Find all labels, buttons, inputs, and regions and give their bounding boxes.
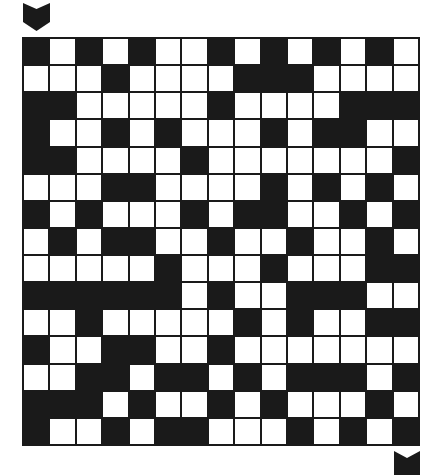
open-cell[interactable] [77,93,101,118]
open-cell[interactable] [130,365,154,390]
open-cell[interactable] [50,256,74,281]
open-cell[interactable] [235,93,259,118]
open-cell[interactable] [262,148,286,173]
open-cell[interactable] [235,229,259,254]
open-cell[interactable] [288,256,312,281]
open-cell[interactable] [103,39,127,64]
open-cell[interactable] [24,229,48,254]
open-cell[interactable] [341,392,365,417]
open-cell[interactable] [341,229,365,254]
open-cell[interactable] [314,256,338,281]
open-cell[interactable] [156,202,180,227]
open-cell[interactable] [235,148,259,173]
open-cell[interactable] [288,337,312,362]
open-cell[interactable] [103,93,127,118]
open-cell[interactable] [314,148,338,173]
open-cell[interactable] [103,310,127,335]
open-cell[interactable] [50,39,74,64]
open-cell[interactable] [130,66,154,91]
open-cell[interactable] [50,337,74,362]
open-cell[interactable] [235,283,259,308]
open-cell[interactable] [50,120,74,145]
open-cell[interactable] [209,120,233,145]
open-cell[interactable] [77,66,101,91]
open-cell[interactable] [235,419,259,444]
open-cell[interactable] [367,120,391,145]
open-cell[interactable] [77,337,101,362]
open-cell[interactable] [209,66,233,91]
open-cell[interactable] [130,419,154,444]
open-cell[interactable] [182,120,206,145]
open-cell[interactable] [209,419,233,444]
open-cell[interactable] [24,365,48,390]
open-cell[interactable] [394,175,418,200]
open-cell[interactable] [130,148,154,173]
open-cell[interactable] [314,337,338,362]
open-cell[interactable] [262,229,286,254]
open-cell[interactable] [235,256,259,281]
open-cell[interactable] [394,283,418,308]
maze-grid[interactable] [22,37,420,446]
open-cell[interactable] [288,175,312,200]
open-cell[interactable] [50,202,74,227]
open-cell[interactable] [50,175,74,200]
open-cell[interactable] [156,148,180,173]
open-cell[interactable] [130,310,154,335]
open-cell[interactable] [182,256,206,281]
open-cell[interactable] [314,310,338,335]
open-cell[interactable] [182,283,206,308]
open-cell[interactable] [156,93,180,118]
open-cell[interactable] [130,256,154,281]
open-cell[interactable] [50,310,74,335]
open-cell[interactable] [103,202,127,227]
open-cell[interactable] [394,392,418,417]
open-cell[interactable] [156,39,180,64]
open-cell[interactable] [314,202,338,227]
open-cell[interactable] [341,148,365,173]
open-cell[interactable] [209,310,233,335]
open-cell[interactable] [288,202,312,227]
open-cell[interactable] [235,175,259,200]
open-cell[interactable] [367,148,391,173]
open-cell[interactable] [24,310,48,335]
open-cell[interactable] [182,310,206,335]
open-cell[interactable] [156,392,180,417]
open-cell[interactable] [341,66,365,91]
open-cell[interactable] [209,202,233,227]
open-cell[interactable] [262,93,286,118]
open-cell[interactable] [367,337,391,362]
open-cell[interactable] [77,419,101,444]
open-cell[interactable] [288,392,312,417]
open-cell[interactable] [367,283,391,308]
open-cell[interactable] [262,419,286,444]
open-cell[interactable] [314,229,338,254]
open-cell[interactable] [394,39,418,64]
open-cell[interactable] [24,66,48,91]
open-cell[interactable] [50,419,74,444]
open-cell[interactable] [367,202,391,227]
open-cell[interactable] [103,256,127,281]
open-cell[interactable] [288,148,312,173]
open-cell[interactable] [262,365,286,390]
open-cell[interactable] [77,175,101,200]
open-cell[interactable] [288,93,312,118]
open-cell[interactable] [367,66,391,91]
open-cell[interactable] [130,120,154,145]
open-cell[interactable] [288,120,312,145]
open-cell[interactable] [130,202,154,227]
open-cell[interactable] [77,148,101,173]
open-cell[interactable] [262,310,286,335]
open-cell[interactable] [341,310,365,335]
open-cell[interactable] [156,66,180,91]
open-cell[interactable] [24,175,48,200]
open-cell[interactable] [182,39,206,64]
open-cell[interactable] [341,256,365,281]
open-cell[interactable] [367,419,391,444]
open-cell[interactable] [209,365,233,390]
open-cell[interactable] [394,229,418,254]
open-cell[interactable] [50,365,74,390]
open-cell[interactable] [235,392,259,417]
open-cell[interactable] [77,229,101,254]
open-cell[interactable] [235,39,259,64]
open-cell[interactable] [77,120,101,145]
